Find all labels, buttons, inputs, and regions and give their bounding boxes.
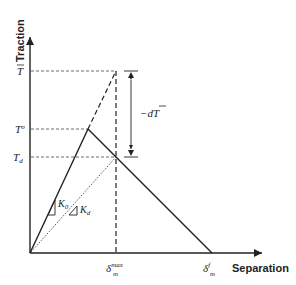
kd-label: Kd: [79, 204, 91, 217]
damaged-stiffness-line: [31, 157, 116, 252]
elastic-extension-line: [88, 71, 116, 129]
delta-f-sub: m: [210, 270, 215, 278]
traction-drop-arrowhead-top: [128, 72, 134, 78]
softening-line: [88, 129, 212, 253]
initial-stiffness-line: [30, 129, 88, 253]
t-d-label: Td: [13, 151, 23, 165]
delta-max-sub: m: [113, 270, 118, 278]
k0-label: K0: [57, 198, 69, 211]
x-axis-title: Separation: [232, 262, 289, 274]
y-axis-title: Traction: [14, 19, 26, 62]
kd-slope-triangle: [69, 206, 77, 215]
traction-drop-label: −dT: [140, 107, 160, 119]
t-bar-label: T: [17, 65, 24, 77]
k0-slope-triangle: [48, 200, 55, 215]
t-zero-label: To: [15, 123, 25, 135]
traction-drop-arrowhead-bottom: [128, 150, 134, 156]
traction-separation-diagram: Traction Separation K0 Kd −dT T To Td δm…: [0, 0, 296, 285]
